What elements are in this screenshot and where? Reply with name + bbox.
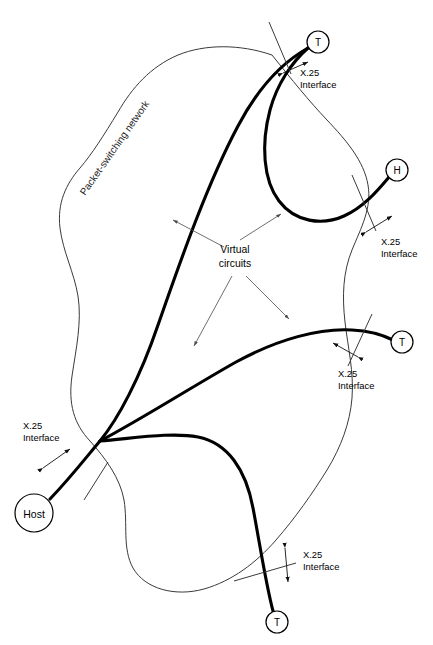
- x25-interface-marker-host-h: X.25 Interface: [352, 175, 417, 259]
- node-host-left[interactable]: Host: [15, 494, 53, 532]
- network-diagram: X.25 Interface X.25 Interface X.25 Inter…: [0, 0, 433, 645]
- node-label: Host: [23, 508, 45, 520]
- x25-interface-marker-top-terminal: X.25 Interface: [269, 22, 336, 90]
- node-label: T: [315, 37, 321, 48]
- packet-switching-network-label: Packet-switching network: [78, 98, 152, 198]
- node-t-middle[interactable]: T: [391, 331, 413, 353]
- node-h-right[interactable]: H: [386, 159, 408, 181]
- node-label: T: [399, 337, 405, 348]
- network-cloud-path: [59, 47, 368, 592]
- leader-line-top-right: [240, 214, 281, 240]
- virtual-circuits-label-line1: Virtual: [220, 244, 249, 255]
- interface-double-arrow: [43, 449, 70, 468]
- x25-label-line1: X.25: [303, 549, 322, 560]
- diagram-canvas: X.25 Interface X.25 Interface X.25 Inter…: [0, 0, 433, 645]
- virtual-circuit-top-terminal-to-host-h: [265, 48, 389, 221]
- x25-label-line2: Interface: [381, 248, 417, 259]
- node-label: T: [274, 617, 280, 628]
- interface-double-arrow: [333, 343, 358, 357]
- x25-label-line1: X.25: [300, 67, 319, 78]
- interface-tick-line: [352, 175, 376, 231]
- x25-interface-markers: X.25 Interface X.25 Interface X.25 Inter…: [23, 22, 417, 582]
- x25-interface-marker-middle-terminal: X.25 Interface: [333, 314, 374, 391]
- packet-switching-network-outline: [59, 47, 368, 592]
- virtual-circuits-group: [50, 48, 393, 611]
- packet-switching-network-label-group: Packet-switching network: [78, 98, 152, 198]
- x25-label-line1: X.25: [23, 420, 42, 431]
- node-label: H: [393, 165, 400, 176]
- x25-interface-marker-host-left: X.25 Interface: [23, 420, 108, 500]
- x25-label-line1: X.25: [381, 236, 400, 247]
- x25-label-line2: Interface: [338, 380, 374, 391]
- x25-label-line1: X.25: [338, 368, 357, 379]
- nodes-group: T H T T Host: [15, 31, 413, 633]
- x25-label-line2: Interface: [303, 561, 339, 572]
- interface-double-arrow: [366, 216, 392, 232]
- node-t-bottom[interactable]: T: [266, 611, 288, 633]
- leader-line-bottom-left: [194, 276, 232, 346]
- leader-line-bottom-right: [246, 276, 289, 319]
- virtual-circuits-label-line2: circuits: [219, 258, 251, 269]
- interface-tick-line: [269, 22, 291, 74]
- x25-label-line2: Interface: [23, 432, 59, 443]
- interface-tick-line: [348, 314, 372, 366]
- node-t-top[interactable]: T: [307, 31, 329, 53]
- leader-line-left: [173, 220, 224, 247]
- x25-label-line2: Interface: [300, 79, 336, 90]
- interface-tick-line: [84, 462, 108, 500]
